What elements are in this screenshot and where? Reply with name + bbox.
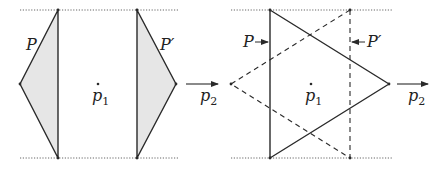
vertex-dot	[175, 83, 178, 86]
label-p: P	[25, 35, 37, 54]
label-p1: p1	[305, 86, 322, 108]
point-p1	[97, 83, 100, 86]
label-p2: p2	[408, 86, 425, 108]
vertex-dot	[230, 83, 233, 86]
polygon-p-prime	[137, 10, 176, 158]
vertex-dot	[57, 157, 60, 160]
vertex-dot	[269, 157, 272, 160]
label-p: P	[242, 32, 254, 51]
vertex-dot	[388, 83, 391, 86]
vertex-dot	[349, 9, 352, 12]
point-p1	[310, 83, 313, 86]
vertex-dot	[136, 157, 139, 160]
vertex-dot	[136, 9, 139, 12]
label-p-prime: P′	[366, 32, 382, 51]
label-p-prime: P′	[159, 35, 175, 54]
vertex-dot	[349, 157, 352, 160]
label-p2: p2	[200, 86, 217, 108]
right-panel: P P′ p1 p2	[230, 9, 428, 160]
vertex-dot	[57, 9, 60, 12]
vertex-dot	[269, 9, 272, 12]
polygon-p	[20, 10, 58, 158]
diagram-canvas: P P′ p1 p2 P P′ p1 p2	[0, 0, 444, 170]
vertex-dot	[19, 83, 22, 86]
left-panel: P P′ p1 p2	[19, 9, 218, 160]
label-p1: p1	[92, 86, 109, 108]
